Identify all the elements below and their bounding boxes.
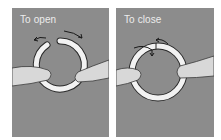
ring-open-illustration xyxy=(12,8,109,137)
ring-close-illustration xyxy=(116,8,214,137)
panel-to-open: To open xyxy=(12,8,109,137)
panel-to-close: To close xyxy=(116,8,214,137)
